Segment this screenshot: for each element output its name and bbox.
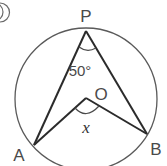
label-O: O [94, 85, 107, 104]
label-P: P [80, 7, 91, 26]
segment-PA [34, 31, 86, 145]
angle-arc-P [79, 47, 96, 50]
label-angle-x: x [81, 118, 90, 137]
geometry-diagram: P 50° O x A B [0, 0, 167, 166]
label-B: B [150, 140, 161, 159]
problem-number-marker [0, 3, 10, 22]
angle-arc-O [75, 106, 99, 114]
circumscribed-circle [15, 28, 157, 166]
label-angle-P: 50° [69, 62, 92, 79]
label-A: A [13, 146, 25, 165]
segment-OA [34, 98, 86, 145]
segment-PB [86, 31, 147, 134]
